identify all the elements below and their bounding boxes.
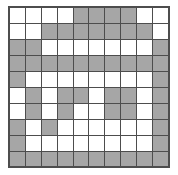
grid-cell[interactable] xyxy=(73,135,89,151)
grid-cell[interactable] xyxy=(153,87,169,103)
grid-cell[interactable] xyxy=(41,55,57,71)
grid-cell[interactable] xyxy=(137,55,153,71)
grid-cell[interactable] xyxy=(57,39,73,55)
grid-cell[interactable] xyxy=(121,71,137,87)
grid-cell[interactable] xyxy=(153,23,169,39)
grid-cell[interactable] xyxy=(57,7,73,23)
grid-cell[interactable] xyxy=(41,151,57,167)
grid-cell[interactable] xyxy=(137,103,153,119)
grid-cell[interactable] xyxy=(41,87,57,103)
grid-cell[interactable] xyxy=(73,23,89,39)
grid-cell[interactable] xyxy=(9,23,25,39)
grid-cell[interactable] xyxy=(137,71,153,87)
grid-cell[interactable] xyxy=(105,151,121,167)
grid-cell[interactable] xyxy=(73,7,89,23)
grid-cell[interactable] xyxy=(41,23,57,39)
grid-cell[interactable] xyxy=(121,135,137,151)
grid-cell[interactable] xyxy=(137,23,153,39)
grid-cell[interactable] xyxy=(153,39,169,55)
grid-cell[interactable] xyxy=(57,103,73,119)
grid-cell[interactable] xyxy=(153,55,169,71)
grid-cell[interactable] xyxy=(121,103,137,119)
grid-cell[interactable] xyxy=(105,55,121,71)
grid-cell[interactable] xyxy=(121,151,137,167)
grid-cell[interactable] xyxy=(121,119,137,135)
grid-cell[interactable] xyxy=(105,39,121,55)
grid-cell[interactable] xyxy=(25,151,41,167)
grid-cell[interactable] xyxy=(25,103,41,119)
grid-cell[interactable] xyxy=(89,87,105,103)
grid-cell[interactable] xyxy=(89,71,105,87)
grid-cell[interactable] xyxy=(57,71,73,87)
grid-cell[interactable] xyxy=(105,103,121,119)
grid-cell[interactable] xyxy=(25,39,41,55)
grid-cell[interactable] xyxy=(105,135,121,151)
grid-cell[interactable] xyxy=(153,135,169,151)
grid-cell[interactable] xyxy=(41,135,57,151)
grid-cell[interactable] xyxy=(73,87,89,103)
grid-cell[interactable] xyxy=(9,119,25,135)
grid-cell[interactable] xyxy=(73,119,89,135)
grid-cell[interactable] xyxy=(89,39,105,55)
grid-cell[interactable] xyxy=(89,55,105,71)
grid-cell[interactable] xyxy=(9,39,25,55)
grid-cell[interactable] xyxy=(137,119,153,135)
grid-cell[interactable] xyxy=(89,23,105,39)
grid-cell[interactable] xyxy=(9,87,25,103)
grid-cell[interactable] xyxy=(25,55,41,71)
grid-cell[interactable] xyxy=(25,119,41,135)
grid-cell[interactable] xyxy=(121,23,137,39)
grid-cell[interactable] xyxy=(9,135,25,151)
grid-cell[interactable] xyxy=(73,71,89,87)
grid-cell[interactable] xyxy=(121,87,137,103)
grid-cell[interactable] xyxy=(57,87,73,103)
grid-cell[interactable] xyxy=(9,55,25,71)
grid-cell[interactable] xyxy=(137,135,153,151)
grid-cell[interactable] xyxy=(153,7,169,23)
grid-cell[interactable] xyxy=(41,7,57,23)
grid-cell[interactable] xyxy=(57,119,73,135)
grid-cell[interactable] xyxy=(153,119,169,135)
grid-cell[interactable] xyxy=(89,135,105,151)
grid-cell[interactable] xyxy=(105,71,121,87)
grid-cell[interactable] xyxy=(73,55,89,71)
grid-cell[interactable] xyxy=(137,87,153,103)
grid-cell[interactable] xyxy=(121,55,137,71)
grid-cell[interactable] xyxy=(105,119,121,135)
grid-cell[interactable] xyxy=(137,7,153,23)
grid-cell[interactable] xyxy=(9,7,25,23)
grid-cell[interactable] xyxy=(73,39,89,55)
grid-cell[interactable] xyxy=(153,103,169,119)
grid-cell[interactable] xyxy=(25,7,41,23)
grid-cell[interactable] xyxy=(73,103,89,119)
grid-cell[interactable] xyxy=(25,135,41,151)
grid-cell[interactable] xyxy=(105,87,121,103)
grid-cell[interactable] xyxy=(41,119,57,135)
grid-cell[interactable] xyxy=(121,7,137,23)
grid-cell[interactable] xyxy=(9,103,25,119)
grid-cell[interactable] xyxy=(41,103,57,119)
grid-cell[interactable] xyxy=(137,39,153,55)
grid-cell[interactable] xyxy=(89,103,105,119)
grid-cell[interactable] xyxy=(89,119,105,135)
grid-cell[interactable] xyxy=(89,151,105,167)
grid-cell[interactable] xyxy=(121,39,137,55)
grid-cell[interactable] xyxy=(153,71,169,87)
grid-cell[interactable] xyxy=(25,71,41,87)
grid-cell[interactable] xyxy=(9,71,25,87)
grid-cell[interactable] xyxy=(57,55,73,71)
grid-cell[interactable] xyxy=(105,23,121,39)
grid-cell[interactable] xyxy=(25,23,41,39)
grid-cell[interactable] xyxy=(57,135,73,151)
grid-cell[interactable] xyxy=(9,151,25,167)
grid-cell[interactable] xyxy=(41,71,57,87)
grid-cell[interactable] xyxy=(57,23,73,39)
grid-cell[interactable] xyxy=(105,7,121,23)
grid-cell[interactable] xyxy=(153,151,169,167)
grid-cell[interactable] xyxy=(41,39,57,55)
grid-cell[interactable] xyxy=(137,151,153,167)
grid-cell[interactable] xyxy=(57,151,73,167)
grid-cell[interactable] xyxy=(89,7,105,23)
grid-cell[interactable] xyxy=(25,87,41,103)
grid-cell[interactable] xyxy=(73,151,89,167)
